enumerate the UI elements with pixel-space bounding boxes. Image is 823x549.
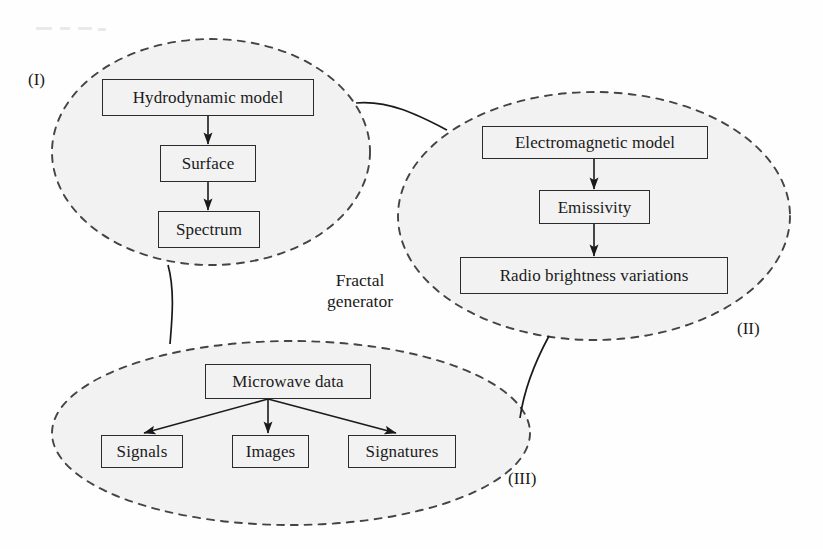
- node-label-microwave-data: Microwave data: [232, 373, 343, 390]
- node-box-signals: Signals: [101, 435, 183, 468]
- node-box-hydrodynamic-model: Hydrodynamic model: [102, 79, 314, 116]
- node-label-hydrodynamic-model: Hydrodynamic model: [133, 89, 284, 106]
- group-label-group-1: (I): [28, 71, 45, 88]
- scan-artifact-1: [60, 27, 70, 30]
- fractal-generator-label: Fractal generator: [300, 270, 420, 313]
- connector-i-to-iii: [168, 265, 172, 344]
- group-label-group-2: (II): [737, 320, 760, 337]
- node-box-signatures: Signatures: [348, 435, 456, 468]
- node-label-emissivity: Emissivity: [558, 199, 632, 216]
- node-box-images: Images: [232, 435, 309, 468]
- node-box-surface: Surface: [160, 145, 256, 182]
- scan-artifact-2: [78, 27, 92, 30]
- node-label-spectrum: Spectrum: [176, 221, 242, 238]
- node-box-electromagnetic-model: Electromagnetic model: [482, 126, 708, 159]
- group-label-group-3: (III): [508, 470, 536, 487]
- scan-artifact-0: [36, 27, 52, 30]
- diagram-canvas: Hydrodynamic modelSurfaceSpectrumElectro…: [0, 0, 823, 549]
- node-box-microwave-data: Microwave data: [205, 364, 371, 399]
- node-box-spectrum: Spectrum: [158, 211, 260, 248]
- node-label-electromagnetic-model: Electromagnetic model: [515, 134, 675, 151]
- node-box-emissivity: Emissivity: [539, 190, 650, 224]
- connector-i-to-ii: [356, 103, 447, 130]
- node-label-radio-brightness-variations: Radio brightness variations: [500, 267, 689, 284]
- node-label-images: Images: [246, 443, 296, 460]
- connector-ii-to-iii: [520, 336, 549, 418]
- node-label-signatures: Signatures: [366, 443, 439, 460]
- node-label-signals: Signals: [117, 443, 168, 460]
- node-label-surface: Surface: [182, 155, 235, 172]
- node-box-radio-brightness-variations: Radio brightness variations: [460, 257, 728, 294]
- scan-artifact-3: [98, 28, 106, 31]
